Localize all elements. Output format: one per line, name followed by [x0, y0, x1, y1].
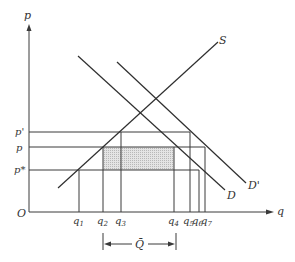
svg-text:q1: q1 — [73, 215, 84, 228]
supply-demand-diagram: S D D' p q O p' p p* q1 q2 q3 q4 q5 q6 q… — [0, 0, 295, 262]
qty-label-q3: q3 — [115, 215, 126, 228]
quota-bracket: Q̄ — [103, 233, 176, 251]
svg-text:q4: q4 — [168, 215, 179, 228]
supply-label: S — [219, 34, 227, 47]
shaded-region — [103, 147, 174, 170]
qty-label-q1: q1 — [73, 215, 84, 228]
svg-text:q3: q3 — [115, 215, 126, 228]
y-axis-label: p — [24, 9, 31, 22]
qty-label-q2: q2 — [97, 215, 108, 228]
arrow-right-icon — [168, 242, 175, 247]
x-axis-label: q — [277, 205, 284, 218]
price-label-p: p — [16, 142, 23, 153]
qty-label-q4: q4 — [168, 215, 179, 228]
price-label-p-star: p* — [14, 164, 25, 175]
demand-shifted-label: D' — [247, 179, 260, 192]
origin-label: O — [17, 207, 26, 220]
demand-label: D — [226, 189, 236, 202]
svg-text:q2: q2 — [97, 215, 108, 228]
quota-label: Q̄ — [135, 238, 144, 251]
price-label-p-prime: p' — [15, 126, 24, 137]
x-axis-arrow-icon — [266, 210, 274, 215]
arrow-left-icon — [104, 242, 111, 247]
y-axis-arrow-icon — [27, 24, 32, 31]
